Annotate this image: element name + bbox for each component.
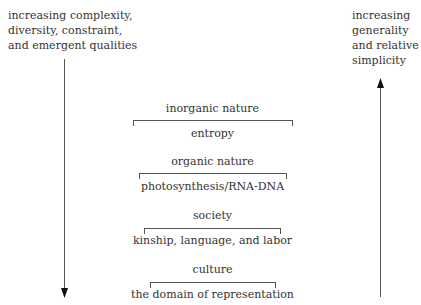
level-sub-photosynthesis: photosynthesis/RNA-DNA: [4, 180, 421, 194]
level-sub-entropy: entropy: [4, 127, 421, 141]
level-title-society: society: [4, 209, 421, 223]
level-title-culture: culture: [4, 263, 421, 277]
bracket: [133, 120, 293, 126]
level-sub-kinship: kinship, language, and labor: [4, 234, 421, 248]
bracket: [139, 173, 287, 179]
level-sub-representation: the domain of representation: [4, 288, 421, 302]
level-title-inorganic: inorganic nature: [4, 102, 421, 116]
level-title-organic: organic nature: [4, 155, 421, 169]
up-arrow-head-icon: [377, 78, 384, 88]
